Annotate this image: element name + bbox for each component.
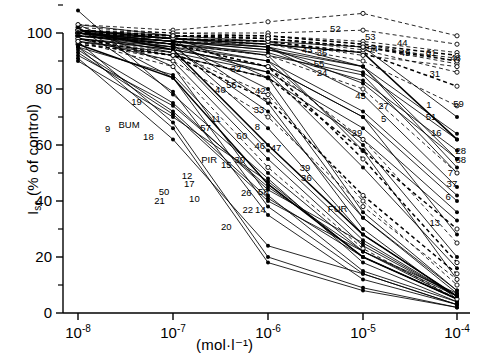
data-point-open [266, 165, 270, 169]
data-point-filled [455, 294, 459, 298]
curve-label: 15 [221, 159, 232, 170]
curve-label: 19 [131, 96, 142, 107]
data-point-filled [361, 109, 365, 113]
data-point-filled [361, 115, 365, 119]
data-point-filled [361, 65, 365, 69]
data-point-open [455, 241, 459, 245]
data-point-open [455, 227, 459, 231]
y-axis-title-sub: sc [32, 200, 43, 210]
data-point-filled [455, 115, 459, 119]
curve-label: 48 [450, 52, 461, 63]
curve-label: 43 [302, 44, 313, 55]
data-point-open [171, 34, 175, 38]
data-point-filled [455, 255, 459, 259]
data-point-filled [455, 199, 459, 203]
x-axis-tick-label: 10-6 [255, 323, 281, 341]
x-axis-tick-exponent: -6 [272, 323, 281, 334]
data-point-filled [266, 149, 270, 153]
chart-canvas: 02040608010010-810-710-610-510-4 9BUM191… [0, 0, 491, 362]
curve-label: 20 [221, 221, 232, 232]
data-point-open [455, 272, 459, 276]
curve-label: 54 [367, 43, 378, 54]
data-point-filled [361, 165, 365, 169]
data-point-open [455, 34, 459, 38]
curve-label: 36 [301, 172, 312, 183]
y-axis-title-rest: (% of control) [24, 104, 41, 196]
y-axis-tick-label: 0 [44, 304, 52, 321]
data-point-filled [361, 277, 365, 281]
curve-label: 37 [447, 178, 458, 189]
data-point-filled [361, 255, 365, 259]
data-point-open [266, 115, 270, 119]
data-point-filled [455, 266, 459, 270]
curve-label: 42 [255, 85, 266, 96]
data-point-filled [361, 143, 365, 147]
curve-label: 60 [237, 130, 248, 141]
series-line [78, 55, 457, 296]
curve-label: 59 [453, 98, 464, 109]
data-point-open [455, 70, 459, 74]
x-axis-tick-label: 10-4 [444, 323, 470, 341]
x-axis-tick-label: 10-7 [160, 323, 186, 341]
data-point-filled [455, 137, 459, 141]
data-point-filled [76, 31, 80, 35]
data-point-filled [76, 9, 80, 13]
data-point-filled [361, 233, 365, 237]
data-point-filled [361, 149, 365, 153]
curve-label: 44 [397, 37, 408, 48]
curve-label: 24 [317, 67, 328, 78]
curve-label: 6 [446, 191, 451, 202]
curve-label: 46 [254, 140, 265, 151]
data-point-open [455, 283, 459, 287]
data-point-open [455, 42, 459, 46]
curve-label: 33 [254, 104, 265, 115]
curve-label: 17 [184, 178, 195, 189]
curve-label: 39 [300, 162, 311, 173]
data-point-filled [76, 25, 80, 29]
data-point-filled [266, 87, 270, 91]
data-point-filled [76, 53, 80, 57]
data-point-filled [361, 227, 365, 231]
data-point-open [171, 59, 175, 63]
curve-label: 45 [355, 90, 366, 101]
data-point-open [361, 45, 365, 49]
curve-label: 22 [243, 204, 254, 215]
data-point-filled [455, 233, 459, 237]
data-point-filled [455, 219, 459, 223]
data-point-filled [455, 193, 459, 197]
data-point-open [455, 277, 459, 281]
y-axis-title-main: I [24, 211, 41, 215]
data-point-open [266, 98, 270, 102]
curve-label: 35 [317, 47, 328, 58]
curve-label: 18 [143, 131, 154, 142]
series-group [76, 31, 459, 293]
curve-label: 13 [430, 217, 441, 228]
data-point-filled [361, 210, 365, 214]
data-point-open [266, 93, 270, 97]
data-point-filled [266, 255, 270, 259]
x-axis-tick-exponent: -7 [177, 323, 186, 334]
data-point-filled [171, 45, 175, 49]
data-point-filled [361, 79, 365, 83]
data-point-filled [266, 59, 270, 63]
curve-label: 7 [448, 167, 453, 178]
y-axis-tick-label: 100 [27, 24, 52, 41]
data-point-filled [455, 165, 459, 169]
data-point-open [455, 171, 459, 175]
curve-label: 10 [189, 193, 200, 204]
y-axis-title: Isc (% of control) [24, 75, 43, 245]
curve-label: FUR [328, 203, 348, 214]
data-point-filled [455, 289, 459, 293]
data-point-filled [361, 286, 365, 290]
data-point-open [266, 20, 270, 24]
data-point-filled [455, 210, 459, 214]
data-point-filled [266, 143, 270, 147]
data-point-filled [266, 76, 270, 80]
curve-label: 1 [426, 99, 431, 110]
curve-label: 49 [400, 47, 411, 58]
data-point-open [455, 84, 459, 88]
data-point-filled [266, 244, 270, 248]
curve-label: 55 [314, 58, 325, 69]
data-point-filled [361, 261, 365, 265]
data-point-filled [266, 179, 270, 183]
